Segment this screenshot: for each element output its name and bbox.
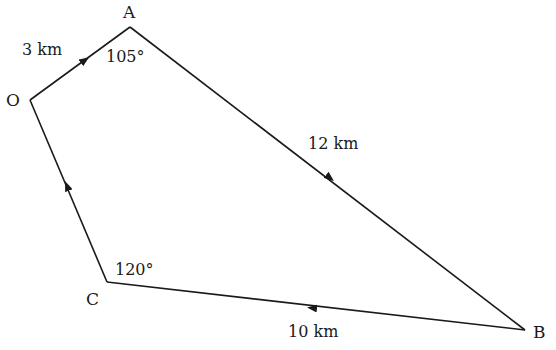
arrow-icon-BC (312, 308, 322, 309)
point-label-A: A (122, 2, 136, 22)
segment-AB (130, 27, 525, 330)
point-label-B: B (533, 322, 546, 342)
path-edges (30, 27, 525, 330)
angle-label-A: 105° (106, 47, 145, 66)
angle-label-C: 120° (115, 260, 154, 279)
length-label-BC: 10 km (288, 322, 338, 341)
length-label-OA: 3 km (22, 40, 62, 59)
segment-CO (30, 100, 107, 282)
direction-arrows (67, 60, 330, 309)
point-label-C: C (86, 289, 99, 309)
point-label-O: O (6, 90, 20, 110)
vector-diagram: A O C B 3 km 12 km 10 km 105° 120° (0, 0, 556, 350)
length-label-AB: 12 km (308, 134, 358, 153)
